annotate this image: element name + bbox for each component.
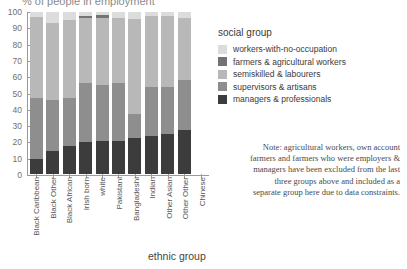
y-axis-tick-label: 20 [2,137,22,147]
x-axis-tick-label: white [98,177,107,196]
legend-item[interactable]: semiskilled & labourers [218,69,404,79]
bar-segment [112,18,125,84]
y-axis-tick-label: 80 [2,40,22,50]
x-label-slot: Pakistani [111,177,128,247]
legend-items: workers-with-no-occupationfarmers & agri… [218,44,404,104]
bar-segment [128,19,141,114]
legend-item[interactable]: managers & professionals [218,94,404,104]
stacked-bar[interactable] [161,12,174,174]
bar-group [28,12,209,174]
bar-segment [63,12,76,20]
bar-segment [112,141,125,174]
stacked-bar[interactable] [46,12,59,174]
legend-item-label: supervisors & artisans [233,82,317,92]
x-label-slot: Other Asian [160,177,177,247]
x-label-slot: Bangladeshi [127,177,144,247]
bar-segment [46,151,59,174]
bar-slot [193,12,209,174]
chart-note: Note: agricultural workers, own account … [248,142,400,198]
x-axis-tick-label: Indian [148,177,157,199]
stacked-bar[interactable] [63,12,76,174]
bar-segment [30,17,43,98]
bar-segment [96,85,109,141]
x-axis-tick-label: Black Other [48,177,57,219]
bar-segment [63,98,76,147]
chart-page: % of people in employment 01020304050607… [0,0,407,269]
bar-slot [28,12,44,174]
x-axis-tick-label: Bangladeshi [131,177,140,221]
legend-swatch-icon [218,82,227,91]
bar-slot [110,12,126,174]
legend-swatch-icon [218,95,227,104]
stacked-bar[interactable] [112,12,125,174]
y-axis-tick-label: 60 [2,72,22,82]
bar-segment [79,18,92,84]
chart-title: % of people in employment [22,0,155,7]
x-label-slot: Chinese [193,177,210,247]
bar-segment [30,98,43,160]
bar-segment [63,20,76,98]
stacked-bar[interactable] [194,12,207,174]
bar-segment [63,146,76,174]
stacked-bar[interactable] [128,12,141,174]
bar-segment [128,12,141,19]
stacked-bar[interactable] [178,12,191,174]
y-axis-tick-label: 70 [2,56,22,66]
x-axis-tick-label: Other Asian [164,177,173,219]
x-axis-labels: Black CaribbeanBlack OtherBlack AfricanI… [28,177,210,247]
bar-slot [44,12,60,174]
stacked-bar[interactable] [30,12,43,174]
y-axis-tick-mark [27,175,30,176]
y-axis-tick-label: 40 [2,105,22,115]
bar-slot [160,12,176,174]
y-axis-tick-label: 10 [2,154,22,164]
legend-item[interactable]: farmers & agricultural workers [218,57,404,67]
bar-segment [178,80,191,130]
bar-segment [46,23,59,100]
legend-item-label: farmers & agricultural workers [233,57,346,67]
x-label-slot: Black Other [45,177,62,247]
x-label-slot: white [94,177,111,247]
legend-swatch-icon [218,57,227,66]
bar-slot [77,12,93,174]
plot-area: 0102030405060708090100 [27,12,209,175]
bar-segment [161,16,174,87]
bar-segment [30,159,43,174]
legend-item[interactable]: workers-with-no-occupation [218,44,404,54]
stacked-bar[interactable] [79,12,92,174]
legend-swatch-icon [218,70,227,79]
bar-segment [128,114,141,138]
x-axis-tick-label: Black Caribbean [32,177,41,236]
x-label-slot: Indian [144,177,161,247]
bar-segment [112,83,125,141]
bar-segment [145,87,158,136]
x-label-slot: Black Caribbean [28,177,45,247]
x-axis-tick-label: Black African [65,177,74,223]
bar-slot [94,12,110,174]
bar-segment [96,18,109,84]
bar-segment [46,100,59,151]
legend-item-label: semiskilled & labourers [233,69,320,79]
y-axis-tick-label: 90 [2,23,22,33]
bar-segment [145,136,158,174]
bar-slot [127,12,143,174]
legend-item[interactable]: supervisors & artisans [218,82,404,92]
stacked-bar[interactable] [96,12,109,174]
bar-segment [178,130,191,174]
y-axis-tick-label: 30 [2,121,22,131]
bar-segment [161,87,174,133]
bar-segment [161,134,174,175]
y-axis-tick-label: 100 [2,7,22,17]
x-axis-title: ethnic group [148,250,206,262]
stacked-bar[interactable] [145,12,158,174]
x-label-slot: Other Other [177,177,194,247]
bar-segment [128,138,141,174]
legend-title: social group [218,27,404,38]
legend-swatch-icon [218,45,227,54]
bar-segment [178,18,191,80]
bar-segment [79,83,92,141]
x-axis-tick-label: Other Other [181,177,190,219]
legend: social group workers-with-no-occupationf… [218,27,404,107]
bar-slot [176,12,192,174]
x-label-slot: Irish born [78,177,95,247]
